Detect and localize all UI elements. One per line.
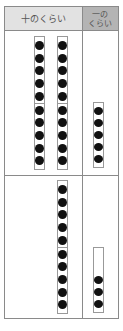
dot-icon xyxy=(58,79,67,88)
dot-icon xyxy=(58,275,67,284)
dot-icon xyxy=(94,107,103,115)
dot-icon xyxy=(58,210,67,219)
dot-icon xyxy=(35,41,44,50)
dot-icon xyxy=(35,92,44,101)
ones-place-label-line2: くらい xyxy=(88,19,112,28)
dot-icon xyxy=(94,143,103,151)
empty-slot xyxy=(94,264,103,272)
dot-icon xyxy=(35,106,44,115)
dot-icon xyxy=(35,144,44,153)
dot-icon xyxy=(58,41,67,50)
dot-icon xyxy=(58,131,67,140)
dot-icon xyxy=(58,288,67,297)
row-divider xyxy=(5,175,118,176)
ones-rod xyxy=(93,247,104,313)
dot-icon xyxy=(58,198,67,207)
ones-place-header: 一の くらい xyxy=(82,7,118,31)
dot-icon xyxy=(58,118,67,127)
tens-place-label: 十のくらい xyxy=(21,12,66,25)
tens-place-header: 十のくらい xyxy=(5,7,82,31)
empty-slot xyxy=(94,252,103,260)
ten-rod xyxy=(34,36,45,170)
dot-icon xyxy=(35,156,44,165)
dot-icon xyxy=(58,185,67,194)
dot-icon xyxy=(35,54,44,63)
dot-icon xyxy=(58,106,67,115)
dot-icon xyxy=(35,131,44,140)
dot-icon xyxy=(35,66,44,75)
dot-icon xyxy=(58,66,67,75)
ten-rod xyxy=(57,180,68,314)
dot-icon xyxy=(58,262,67,271)
dot-icon xyxy=(94,155,103,163)
dot-icon xyxy=(94,131,103,139)
dot-icon xyxy=(58,223,67,232)
column-divider xyxy=(82,7,83,318)
ones-rod xyxy=(93,102,104,168)
dot-icon xyxy=(35,79,44,88)
dot-icon xyxy=(58,54,67,63)
dot-icon xyxy=(58,144,67,153)
dot-icon xyxy=(58,236,67,245)
dot-icon xyxy=(58,250,67,259)
ones-place-label-line1: 一の xyxy=(92,10,108,19)
dot-icon xyxy=(94,288,103,296)
dot-icon xyxy=(94,276,103,284)
dot-icon xyxy=(58,300,67,309)
dot-icon xyxy=(35,118,44,127)
dot-icon xyxy=(94,300,103,308)
dot-icon xyxy=(94,119,103,127)
dot-icon xyxy=(58,156,67,165)
dot-icon xyxy=(58,92,67,101)
ten-rod xyxy=(57,36,68,170)
